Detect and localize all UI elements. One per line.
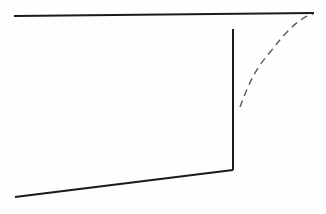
diagram-canvas <box>0 0 326 214</box>
canvas-background <box>0 0 326 214</box>
line-diagram-svg <box>0 0 326 214</box>
